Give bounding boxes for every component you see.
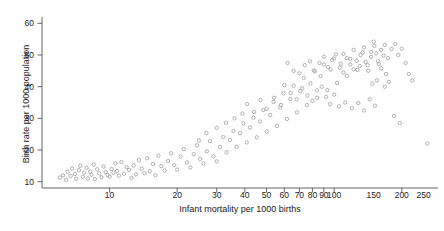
y-axis-title: Birth rate per 1000 population	[21, 24, 31, 184]
data-point	[298, 72, 301, 75]
data-point	[364, 60, 367, 63]
data-point	[332, 93, 335, 96]
data-point	[69, 174, 72, 177]
data-point	[289, 97, 292, 100]
data-point	[326, 88, 329, 91]
data-point	[189, 166, 192, 169]
data-point	[224, 121, 227, 124]
data-point	[305, 103, 308, 106]
data-point	[322, 55, 325, 58]
data-point	[295, 98, 298, 101]
data-point	[283, 83, 286, 86]
data-point	[130, 176, 133, 179]
data-point	[334, 53, 337, 56]
data-point	[58, 176, 61, 179]
data-point	[160, 164, 163, 167]
data-point	[311, 99, 314, 102]
data-point	[275, 124, 278, 127]
data-point	[383, 43, 386, 46]
data-point	[205, 131, 208, 134]
x-tick-label-30: 30	[212, 191, 221, 200]
data-point	[154, 174, 157, 177]
data-point	[259, 98, 262, 101]
data-point	[235, 145, 238, 148]
data-point	[392, 114, 395, 117]
data-point	[75, 177, 78, 180]
data-point	[215, 126, 218, 129]
x-axis-title: Infant mortality per 1000 births	[42, 204, 438, 214]
data-point	[252, 110, 255, 113]
x-tick-label-250: 250	[416, 191, 430, 200]
data-point	[398, 121, 401, 124]
data-point	[148, 170, 151, 173]
data-point	[387, 80, 390, 83]
x-tick-label-70: 70	[295, 191, 304, 200]
data-point	[369, 50, 372, 53]
data-point	[345, 74, 348, 77]
data-point	[93, 177, 96, 180]
data-point	[82, 171, 85, 174]
data-point	[300, 87, 303, 90]
data-point	[127, 168, 130, 171]
x-tick-label-10: 10	[105, 191, 114, 200]
data-point	[404, 61, 407, 64]
data-point	[366, 63, 369, 66]
data-point	[355, 59, 358, 62]
data-point	[369, 55, 372, 58]
data-point	[248, 126, 251, 129]
data-point	[306, 94, 309, 97]
data-point	[286, 61, 289, 64]
data-point	[137, 158, 140, 161]
data-point	[61, 174, 64, 177]
data-point	[349, 57, 352, 60]
data-point	[361, 51, 364, 54]
data-point	[202, 162, 205, 165]
data-point	[151, 162, 154, 165]
data-point	[345, 56, 348, 59]
data-point	[315, 89, 318, 92]
data-point	[350, 107, 353, 110]
data-point	[289, 91, 292, 94]
data-point	[303, 63, 306, 66]
x-tick-label-150: 150	[367, 191, 381, 200]
data-point	[195, 144, 198, 147]
data-point-group	[58, 40, 429, 181]
data-point	[373, 44, 376, 47]
data-point	[356, 68, 359, 71]
data-point	[394, 42, 397, 45]
data-point	[265, 130, 268, 133]
data-point	[269, 113, 272, 116]
data-point	[407, 72, 410, 75]
data-point	[66, 170, 69, 173]
data-point	[339, 62, 342, 65]
data-point	[375, 52, 378, 55]
data-point	[335, 81, 338, 84]
data-point	[285, 117, 288, 120]
data-point	[400, 47, 403, 50]
x-tick-marks	[110, 188, 402, 193]
data-point	[357, 101, 360, 104]
data-point	[337, 105, 340, 108]
data-point	[292, 69, 295, 72]
data-point	[295, 111, 298, 114]
data-point	[373, 104, 376, 107]
data-point	[242, 122, 245, 125]
data-point	[272, 96, 275, 99]
data-point	[145, 157, 148, 160]
data-point	[134, 173, 137, 176]
data-point	[352, 68, 355, 71]
data-point	[324, 95, 327, 98]
data-point	[328, 102, 331, 105]
axis-spines	[42, 17, 438, 188]
data-point	[319, 75, 322, 78]
data-point	[397, 53, 400, 56]
data-point	[342, 52, 345, 55]
data-point	[140, 167, 143, 170]
data-point	[102, 165, 105, 168]
data-point	[352, 48, 355, 51]
data-point	[86, 177, 89, 180]
data-point	[114, 162, 117, 165]
data-point	[349, 63, 352, 66]
y-tick-marks	[38, 23, 43, 181]
data-point	[241, 112, 244, 115]
